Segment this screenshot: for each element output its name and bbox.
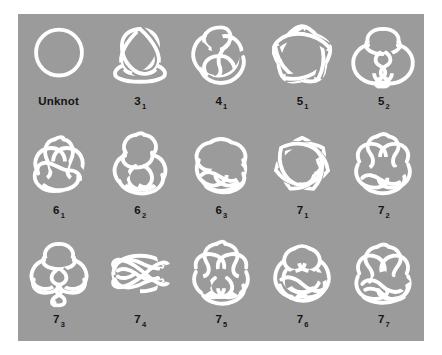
trefoil-diagram-icon (103, 20, 177, 94)
seven-two-diagram-icon (346, 129, 420, 203)
knot-cell-3-1[interactable]: 31 (99, 14, 180, 123)
septafoil-star-diagram-icon (265, 129, 339, 203)
knot-label-7-6: 76 (297, 314, 308, 326)
knot-cell-7-2[interactable]: 72 (343, 123, 424, 232)
knot-label-7-5: 75 (216, 314, 227, 326)
knot-label-6-1: 61 (53, 205, 64, 217)
figure-eight-diagram-icon (184, 20, 258, 94)
knot-label-6-3: 63 (216, 205, 227, 217)
knot-cell-7-1[interactable]: 71 (262, 123, 343, 232)
knot-cell-5-2[interactable]: 52 (343, 14, 424, 123)
knot-cell-7-6[interactable]: 76 (262, 232, 343, 341)
knot-label-7-3: 73 (53, 314, 64, 326)
knot-cell-6-3[interactable]: 63 (180, 123, 261, 232)
knot-label-7-7: 77 (378, 314, 389, 326)
stevedore-diagram-icon (22, 129, 96, 203)
knot-grid: Unknot 31 (18, 14, 424, 341)
knot-cell-4-1[interactable]: 41 (180, 14, 261, 123)
knot-cell-7-4[interactable]: 74 (99, 232, 180, 341)
knot-cell-6-1[interactable]: 61 (18, 123, 99, 232)
knot-cell-unknot[interactable]: Unknot (18, 14, 99, 123)
seven-six-diagram-icon (265, 238, 339, 312)
six-two-diagram-icon (103, 129, 177, 203)
knot-label-unknot: Unknot (38, 96, 79, 108)
seven-four-weave-diagram-icon (103, 238, 177, 312)
knot-cell-5-1[interactable]: 51 (262, 14, 343, 123)
knot-label-5-2: 52 (378, 96, 389, 108)
cinquefoil-star-diagram-icon (265, 20, 339, 94)
knot-cell-6-2[interactable]: 62 (99, 123, 180, 232)
knot-cell-7-7[interactable]: 77 (343, 232, 424, 341)
knot-label-6-2: 62 (134, 205, 145, 217)
knot-label-7-4: 74 (134, 314, 145, 326)
knot-label-7-1: 71 (297, 205, 308, 217)
knot-cell-7-3[interactable]: 73 (18, 232, 99, 341)
knot-label-5-1: 51 (297, 96, 308, 108)
knot-cell-7-5[interactable]: 75 (180, 232, 261, 341)
seven-three-diagram-icon (22, 238, 96, 312)
knot-table-figure: Unknot 31 (18, 14, 424, 341)
knot-label-7-2: 72 (378, 205, 389, 217)
three-twist-diagram-icon (346, 20, 420, 94)
knot-label-3-1: 31 (134, 96, 145, 108)
seven-five-diagram-icon (184, 238, 258, 312)
six-three-diagram-icon (184, 129, 258, 203)
seven-seven-diagram-icon (346, 238, 420, 312)
knot-label-4-1: 41 (216, 96, 227, 108)
unknot-diagram-icon (22, 20, 96, 94)
